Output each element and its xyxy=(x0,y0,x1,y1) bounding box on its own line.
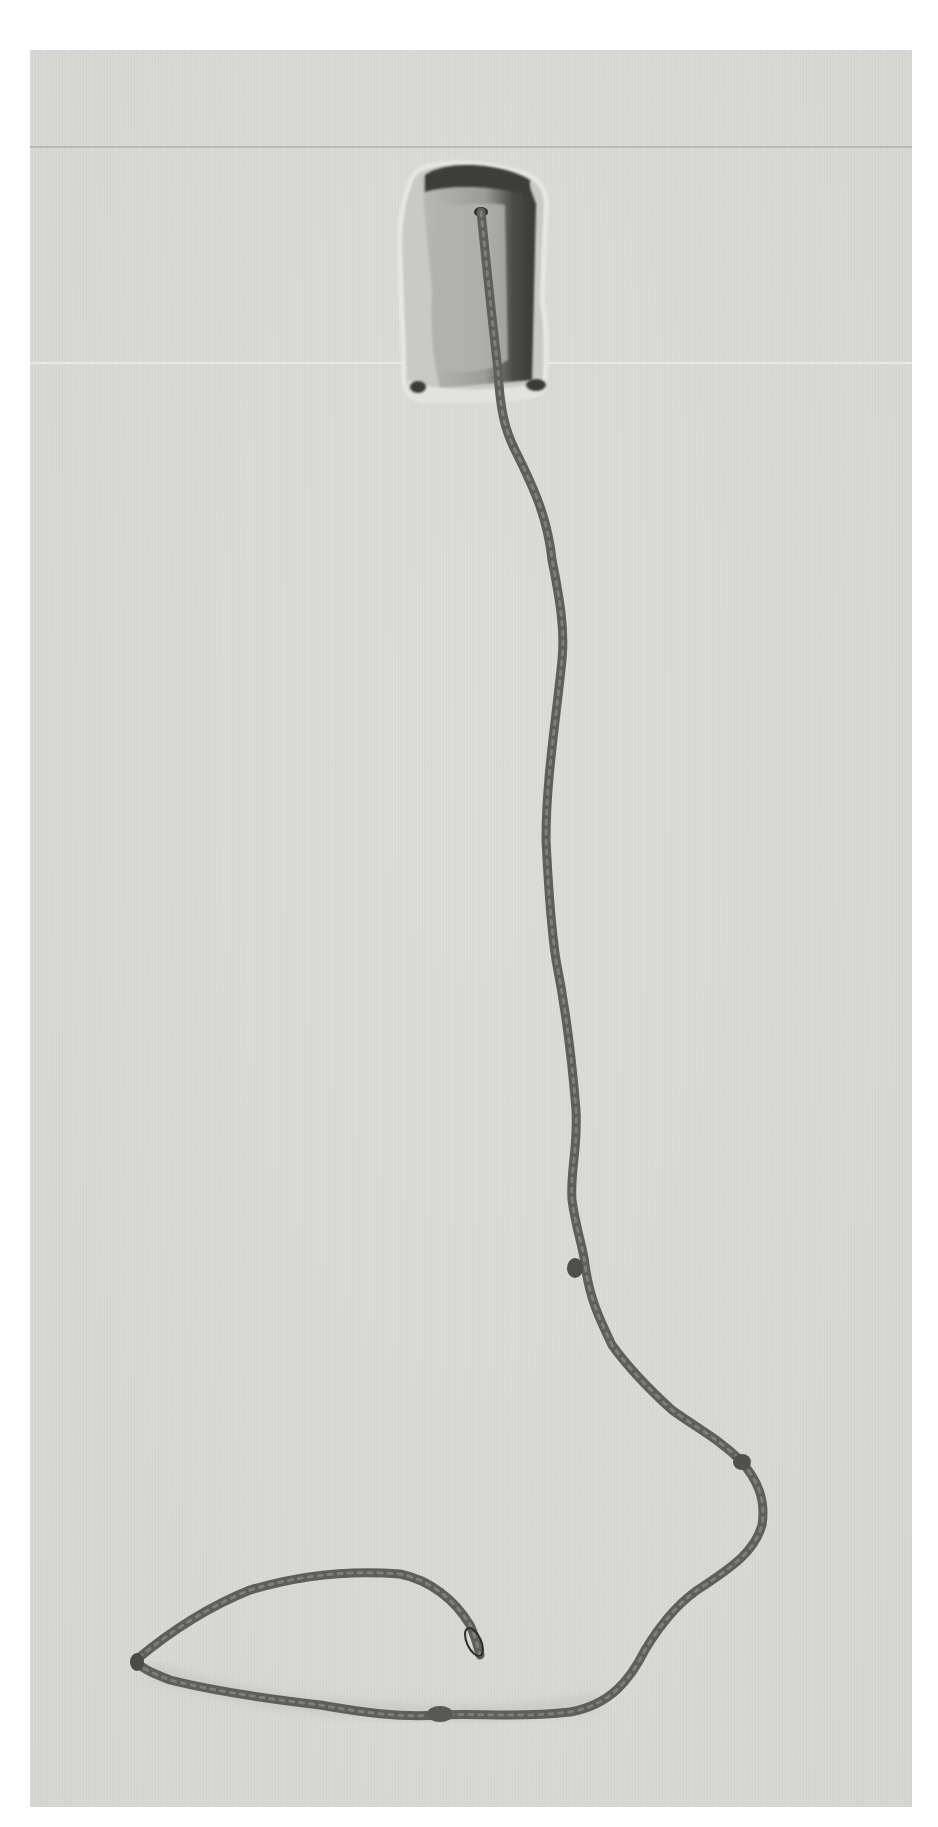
sculpture-illustration xyxy=(0,0,938,1827)
twisted-cord xyxy=(130,212,763,1722)
felt-box xyxy=(400,163,547,402)
